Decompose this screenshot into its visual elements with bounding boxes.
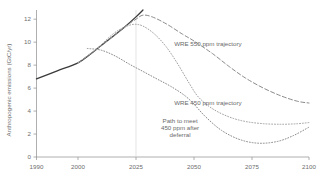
- y-tick-label: 4: [28, 107, 32, 114]
- annotation-group: WRE 550 ppm trajectoryWRE 450 ppm trajec…: [161, 40, 243, 139]
- deferral-label-line1: Path to meet: [163, 117, 198, 124]
- series-line: [37, 10, 143, 79]
- y-tick-label: 6: [28, 84, 32, 91]
- chart-canvas: Anthropogenic emissions (GtC/yr) 0246810…: [0, 0, 323, 183]
- wre-550-label: WRE 550 ppm trajectory: [174, 40, 242, 47]
- x-axis-tick-labels: 199020002025205020752100: [30, 163, 317, 170]
- x-tick-label: 2050: [187, 163, 201, 170]
- emissions-chart: Anthropogenic emissions (GtC/yr) 0246810…: [0, 0, 323, 183]
- y-tick-label: 8: [28, 61, 32, 68]
- y-axis-title-group: Anthropogenic emissions (GtC/yr): [5, 44, 12, 137]
- y-tick-label: 0: [28, 153, 32, 160]
- y-axis-title: Anthropogenic emissions (GtC/yr): [5, 44, 12, 137]
- x-tick-label: 1990: [30, 163, 44, 170]
- y-tick-label: 2: [28, 130, 32, 137]
- x-tick-label: 2100: [302, 163, 316, 170]
- y-axis-tick-marks: [34, 19, 37, 157]
- y-tick-label: 10: [24, 38, 31, 45]
- y-tick-label: 12: [24, 15, 31, 22]
- deferral-label-line3: deferral: [170, 131, 191, 138]
- deferral-label-line2: 450 ppm after: [161, 124, 199, 131]
- x-tick-label: 2075: [245, 163, 259, 170]
- x-tick-label: 2000: [71, 163, 85, 170]
- x-tick-label: 2025: [129, 163, 143, 170]
- y-axis-tick-labels: 024681012: [24, 15, 31, 160]
- x-axis-tick-marks: [37, 157, 310, 160]
- wre-450-label: WRE 450 ppm trajectory: [174, 99, 242, 106]
